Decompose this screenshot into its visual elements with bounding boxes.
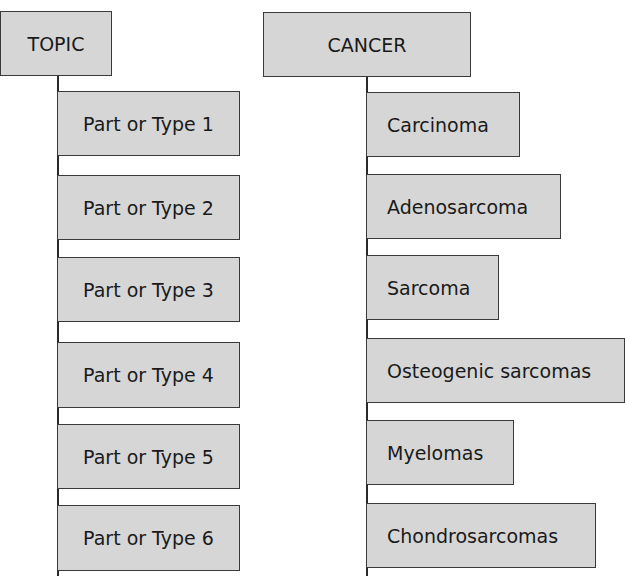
topic-child-label: Part or Type 3 [83, 279, 214, 301]
topic-root-label: TOPIC [28, 33, 85, 55]
cancer-child-label: Carcinoma [387, 114, 489, 136]
cancer-child-label: Sarcoma [387, 277, 470, 299]
topic-child-label: Part or Type 6 [83, 527, 214, 549]
cancer-child-box-4: Osteogenic sarcomas [366, 338, 625, 403]
topic-child-label: Part or Type 1 [83, 113, 214, 135]
topic-child-label: Part or Type 4 [83, 364, 214, 386]
topic-child-box-1: Part or Type 1 [57, 91, 240, 156]
cancer-child-label: Adenosarcoma [387, 196, 528, 218]
topic-child-box-5: Part or Type 5 [57, 424, 240, 489]
cancer-child-label: Chondrosarcomas [387, 525, 558, 547]
cancer-child-box-5: Myelomas [366, 420, 514, 485]
topic-child-box-3: Part or Type 3 [57, 257, 240, 322]
topic-child-box-6: Part or Type 6 [57, 505, 240, 571]
cancer-child-box-1: Carcinoma [366, 92, 520, 157]
cancer-child-box-6: Chondrosarcomas [366, 503, 596, 568]
cancer-child-box-2: Adenosarcoma [366, 174, 561, 239]
cancer-child-label: Osteogenic sarcomas [387, 360, 591, 382]
topic-root-box: TOPIC [0, 11, 112, 76]
cancer-child-label: Myelomas [387, 442, 483, 464]
topic-child-label: Part or Type 2 [83, 197, 214, 219]
topic-child-box-4: Part or Type 4 [57, 342, 240, 408]
topic-child-box-2: Part or Type 2 [57, 175, 240, 240]
cancer-root-box: CANCER [263, 12, 471, 77]
topic-child-label: Part or Type 5 [83, 446, 214, 468]
cancer-root-label: CANCER [328, 34, 407, 56]
cancer-child-box-3: Sarcoma [366, 255, 499, 320]
